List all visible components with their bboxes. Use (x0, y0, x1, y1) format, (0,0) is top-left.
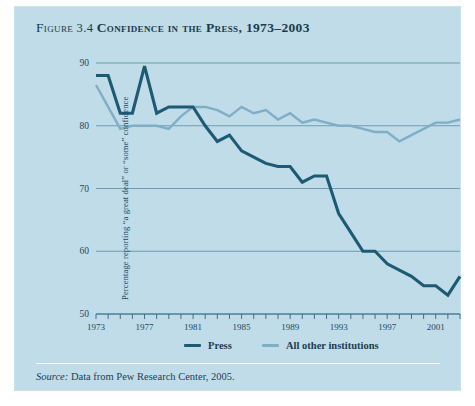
source-text: Data from Pew Research Center, 2005. (68, 371, 234, 382)
source-note: Source: Data from Pew Research Center, 2… (36, 371, 235, 382)
legend-label: Press (208, 340, 232, 351)
plot-area: Percentage reporting “a great deal” or “… (68, 42, 464, 332)
series-line-press (96, 66, 460, 295)
legend-swatch (184, 344, 201, 348)
x-axis-tick-label: 1993 (330, 322, 348, 332)
x-axis-tick-label: 1997 (378, 322, 396, 332)
legend-swatch (262, 344, 279, 348)
figure-number: 3.4 (77, 21, 94, 35)
x-axis-tick-label: 1977 (136, 322, 154, 332)
legend-item: Press (184, 340, 232, 351)
x-axis-tick-label: 1989 (281, 322, 299, 332)
source-divider (36, 363, 440, 364)
y-axis-tick-label: 60 (68, 246, 89, 256)
figure-panel: Figure 3.4 Confidence in the Press, 1973… (14, 6, 461, 391)
figure-title: Figure 3.4 Confidence in the Press, 1973… (36, 20, 310, 36)
figure-root: Figure 3.4 Confidence in the Press, 1973… (0, 0, 475, 406)
y-axis-tick-label: 90 (68, 58, 89, 68)
y-axis-tick-label: 80 (68, 121, 89, 131)
y-axis-title: Percentage reporting “a great deal” or “… (120, 60, 130, 300)
source-label: Source: (36, 371, 68, 382)
figure-label: Figure (36, 20, 73, 35)
figure-title-text: Confidence in the Press, 1973–2003 (97, 20, 310, 35)
legend-item: All other institutions (262, 340, 379, 351)
x-axis-tick-label: 2001 (427, 322, 445, 332)
chart-legend: PressAll other institutions (14, 340, 461, 356)
y-axis-tick-label: 70 (68, 184, 89, 194)
x-axis-tick-label: 1973 (87, 322, 105, 332)
y-axis-tick-label: 50 (68, 309, 89, 319)
x-axis-tick-label: 1985 (233, 322, 251, 332)
x-axis-tick-label: 1981 (184, 322, 202, 332)
legend-label: All other institutions (286, 340, 379, 351)
